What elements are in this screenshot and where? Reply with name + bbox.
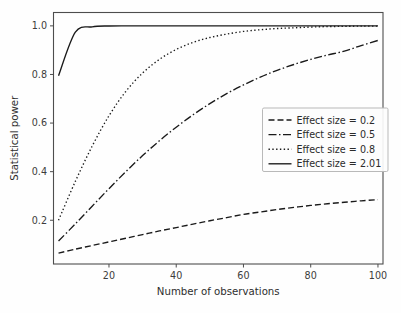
legend-label: Effect size = 0.5 xyxy=(297,129,376,140)
y-tick-label: 1.0 xyxy=(32,20,47,31)
x-tick-label: 60 xyxy=(237,270,249,281)
x-axis-label: Number of observations xyxy=(157,286,280,297)
legend-label: Effect size = 2.01 xyxy=(297,158,382,169)
y-tick-label: 0.4 xyxy=(32,166,47,177)
y-tick-label: 0.8 xyxy=(32,69,47,80)
legend[interactable]: Effect size = 0.2Effect size = 0.5Effect… xyxy=(263,108,389,172)
figure-canvas: 20406080100 0.20.40.60.81.0 Effect size … xyxy=(0,0,401,313)
x-tick-label: 20 xyxy=(103,270,115,281)
y-tick-label: 0.6 xyxy=(32,117,47,128)
power-curve-chart: 20406080100 0.20.40.60.81.0 Effect size … xyxy=(0,0,401,313)
y-tick-label: 0.2 xyxy=(32,215,47,226)
legend-label: Effect size = 0.8 xyxy=(297,144,376,155)
x-tick-label: 100 xyxy=(369,270,387,281)
legend-label: Effect size = 0.2 xyxy=(297,115,376,126)
y-axis-label: Statistical power xyxy=(9,95,20,181)
x-tick-label: 80 xyxy=(305,270,317,281)
x-tick-label: 40 xyxy=(170,270,182,281)
